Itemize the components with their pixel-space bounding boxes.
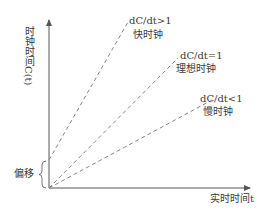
fast-clock-name: 快时钟 xyxy=(133,29,163,41)
ideal-clock-name: 理想时钟 xyxy=(176,63,216,75)
slow-clock-name: 慢时钟 xyxy=(203,106,233,118)
slow-clock-condition: dC/dt<1 xyxy=(200,93,243,105)
fast-clock-condition: dC/dt>1 xyxy=(129,15,172,27)
ideal-clock-line xyxy=(49,58,178,188)
x-axis-label: 实时时间t xyxy=(210,193,254,205)
ideal-clock-condition: dC/dt=1 xyxy=(180,50,223,62)
offset-brace xyxy=(39,161,46,188)
y-axis-label: 时钟时间C(t) xyxy=(22,26,34,85)
slow-clock-line xyxy=(49,100,212,188)
fast-clock-line xyxy=(49,22,128,160)
offset-label: 偏移 xyxy=(14,168,34,180)
